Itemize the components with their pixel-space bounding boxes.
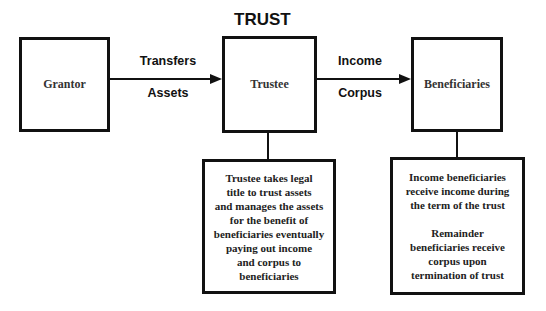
note-line: title to trust assets [214, 185, 324, 199]
note-line: Income beneficiaries [406, 170, 510, 184]
arrowhead-icon [399, 74, 411, 84]
trustee-note: Trustee takes legal title to trust asset… [202, 159, 336, 294]
note-line: and manages the assets [214, 199, 324, 213]
note-line: receive income during [406, 184, 510, 198]
diagram-title: TRUST [234, 10, 291, 30]
connector-trustee-note [267, 133, 269, 160]
note-line: paying out income [214, 241, 324, 255]
note-line: the term of the trust [406, 198, 510, 212]
beneficiaries-node: Beneficiaries [411, 37, 503, 132]
note-line: corpus upon [406, 254, 510, 268]
edge-label-income: Income [325, 54, 395, 68]
grantor-node: Grantor [19, 37, 110, 132]
note-line: for the benefit of [214, 213, 324, 227]
note-line: Trustee takes legal [214, 171, 324, 185]
edge-label-corpus: Corpus [325, 86, 395, 100]
trustee-node: Trustee [222, 36, 317, 133]
grantor-label: Grantor [43, 77, 86, 92]
trustee-label: Trustee [250, 77, 288, 92]
edge-label-assets: Assets [128, 86, 208, 100]
note-line: and corpus to [214, 255, 324, 269]
arrow-grantor-trustee [110, 78, 212, 80]
beneficiaries-label: Beneficiaries [424, 77, 490, 92]
note-line: beneficiaries receive [406, 240, 510, 254]
note-line: beneficiaries [214, 269, 324, 283]
note-spacer [406, 212, 510, 226]
arrowhead-icon [210, 74, 222, 84]
note-line: Remainder [406, 226, 510, 240]
connector-beneficiaries-note [456, 132, 458, 158]
arrow-trustee-beneficiaries [317, 78, 401, 80]
note-line: termination of trust [406, 268, 510, 282]
beneficiaries-note: Income beneficiaries receive income duri… [390, 157, 525, 295]
edge-label-transfers: Transfers [128, 54, 208, 68]
note-line: beneficiaries eventually [214, 227, 324, 241]
